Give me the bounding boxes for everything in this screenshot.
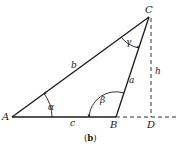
angle-label-alpha: α (48, 102, 54, 112)
side-label-a: a (129, 75, 134, 85)
side-b (12, 17, 149, 117)
vertex-label-d: D (146, 119, 155, 130)
vertex-label-b: B (109, 119, 117, 130)
angle-label-gamma: γ (126, 37, 132, 47)
side-a (116, 17, 149, 117)
figure-caption: (b) (84, 133, 97, 143)
vertex-label-a: A (1, 111, 9, 122)
angle-beta-arc (89, 92, 124, 117)
vertex-label-c: C (145, 4, 153, 15)
side-label-b: b (71, 60, 77, 70)
side-label-c: c (70, 118, 75, 128)
altitude-label-h: h (155, 66, 161, 76)
oblique-triangle-diagram: A B C D b a c h α β γ (b) (0, 0, 180, 150)
angle-label-beta: β (99, 95, 105, 105)
